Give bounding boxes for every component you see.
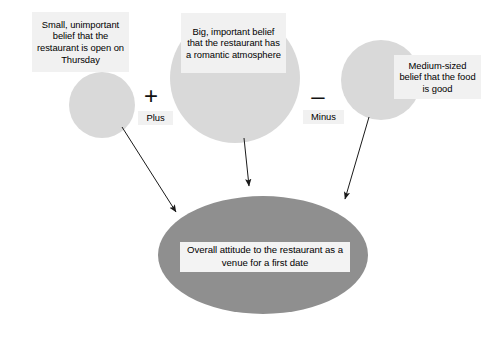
overall-attitude-label: Overall attitude to the restaurant as a … [180,242,350,272]
belief-small-label-text: Small, unimportant belief that the resta… [35,19,126,65]
arrow-big-to-outcome [244,138,249,186]
diagram-canvas: Small, unimportant belief that the resta… [0,0,497,338]
arrow-medium-to-outcome [345,117,369,199]
belief-big-label: Big, important belief that the restauran… [181,13,286,73]
belief-medium-label: Medium-sized belief that the food is goo… [394,55,481,99]
plus-sign-icon: + [140,84,162,108]
minus-sign-icon: – [307,84,329,108]
belief-medium-label-text: Medium-sized belief that the food is goo… [397,60,478,95]
minus-label: Minus [303,110,344,124]
overall-attitude-label-text: Overall attitude to the restaurant as a … [184,244,346,269]
belief-big-label-text: Big, important belief that the restauran… [184,26,283,61]
belief-small-label: Small, unimportant belief that the resta… [32,12,129,72]
plus-label: Plus [138,111,173,125]
arrow-small-to-outcome [122,127,176,212]
